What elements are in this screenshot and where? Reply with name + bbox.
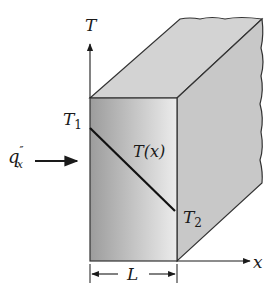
x-axis-label: x <box>253 252 263 272</box>
temperature-axis-label: T <box>85 15 98 35</box>
thickness-label: L <box>126 264 138 284</box>
t1-label: T1 <box>63 109 82 132</box>
profile-label: T(x) <box>133 142 165 161</box>
plane-wall-diagram: T x T1 T2 T(x) q″x L <box>0 0 280 297</box>
wall-front-face <box>90 98 177 261</box>
heat-flux-label: q″x <box>8 144 24 171</box>
